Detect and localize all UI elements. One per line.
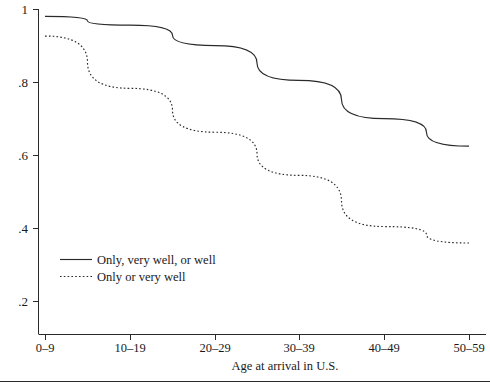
legend-label-dotted: Only or very well	[97, 270, 186, 284]
line-chart-canvas: 1 .8 .6 .4 .2 0–9 10–19 20–29 30–39 40–4…	[0, 0, 490, 387]
y-tick-label-04: .4	[18, 221, 28, 236]
x-axis-title: Age at arrival in U.S.	[232, 359, 339, 373]
chart-legend: Only, very well, or well Only or very we…	[60, 253, 216, 284]
y-axis-ticks	[33, 10, 39, 302]
chart-figure: 1 .8 .6 .4 .2 0–9 10–19 20–29 30–39 40–4…	[0, 0, 490, 387]
y-tick-label-02: .2	[18, 294, 28, 309]
legend-label-solid: Only, very well, or well	[97, 253, 216, 267]
x-tick-label-30-39: 30–39	[283, 341, 314, 355]
series-line-only-very-well-or-well	[45, 16, 469, 146]
series-line-only-or-very-well	[45, 36, 469, 243]
x-axis-ticks	[46, 335, 470, 341]
y-tick-label-1: 1	[22, 2, 29, 17]
y-tick-label-06: .6	[18, 148, 28, 163]
x-tick-label-20-29: 20–29	[199, 341, 230, 355]
x-tick-label-40-49: 40–49	[368, 341, 399, 355]
x-tick-label-0-9: 0–9	[36, 341, 55, 355]
x-tick-label-50-59: 50–59	[453, 341, 484, 355]
y-tick-label-08: .8	[18, 75, 28, 90]
x-tick-label-10-19: 10–19	[114, 341, 145, 355]
